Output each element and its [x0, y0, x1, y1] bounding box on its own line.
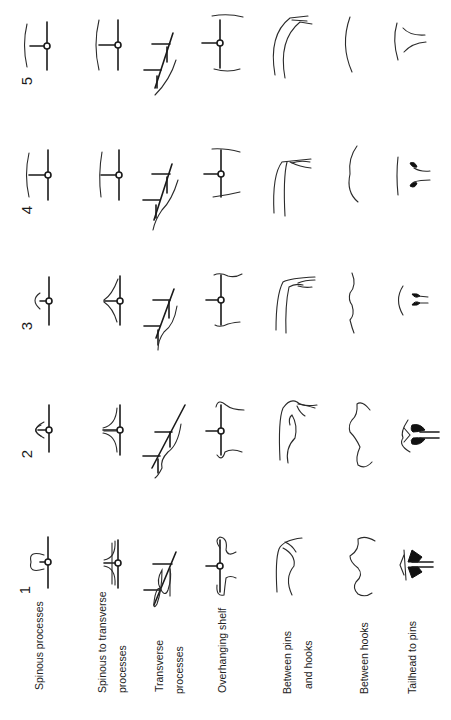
- score-3-row: [35, 273, 428, 350]
- between-hooks-profile-icon: [345, 17, 352, 72]
- spinous-to-transverse-profile-icon: [96, 20, 121, 70]
- label-spinous-processes: Spinous processes: [33, 601, 45, 690]
- pins-hooks-profile-icon: [273, 16, 312, 78]
- transverse-process-profile-icon: [144, 289, 177, 350]
- between-hooks-profile-icon: [349, 146, 358, 202]
- tailhead-profile-icon: [402, 420, 439, 452]
- tailhead-profile-icon: [400, 550, 433, 580]
- spinous-to-transverse-profile-icon: [103, 405, 123, 455]
- pins-hooks-profile-icon: [274, 159, 311, 216]
- label-spinous-to-transverse-2: processes: [116, 645, 128, 693]
- overhanging-shelf-profile-icon: [206, 274, 242, 327]
- spinous-process-profile-icon: [27, 150, 52, 200]
- transverse-process-profile-icon: [144, 33, 176, 95]
- label-overhanging-shelf: Overhanging shelf: [216, 608, 228, 693]
- label-transverse-1: Transverse: [153, 640, 165, 692]
- spinous-process-profile-icon: [36, 405, 53, 452]
- label-between-pins-2: and hooks: [302, 641, 314, 689]
- transverse-process-profile-icon: [143, 405, 185, 478]
- spinous-process-profile-icon: [35, 277, 52, 325]
- overhanging-shelf-profile-icon: [206, 402, 244, 458]
- spinous-to-transverse-profile-icon: [100, 150, 122, 200]
- transverse-process-profile-icon: [143, 164, 178, 230]
- pins-hooks-profile-icon: [279, 401, 317, 463]
- between-hooks-profile-icon: [349, 273, 354, 333]
- spinous-process-profile-icon: [31, 537, 51, 588]
- pins-hooks-profile-icon: [276, 538, 302, 595]
- spinous-to-transverse-profile-icon: [104, 540, 121, 588]
- label-between-pins-1: Between pins: [281, 631, 293, 694]
- overhanging-shelf-profile-icon: [204, 149, 240, 197]
- body-condition-score-diagram: 5 4 3 2 1: [0, 0, 451, 720]
- label-between-hooks: Between hooks: [358, 622, 370, 694]
- overhanging-shelf-profile-icon: [206, 537, 236, 595]
- between-hooks-profile-icon: [349, 403, 372, 467]
- spinous-process-profile-icon: [25, 22, 51, 70]
- score-1-row: [31, 537, 433, 607]
- between-hooks-profile-icon: [350, 537, 375, 595]
- transverse-process-profile-icon: [144, 552, 176, 607]
- label-tailhead-to-pins: Tailhead to pins: [406, 621, 418, 694]
- tailhead-profile-icon: [397, 157, 430, 195]
- label-spinous-to-transverse-1: Spinous to transverse: [96, 591, 108, 693]
- score-2-row: [36, 401, 440, 478]
- pins-hooks-profile-icon: [276, 277, 315, 333]
- spinous-to-transverse-profile-icon: [104, 276, 123, 325]
- label-transverse-2: processes: [173, 646, 185, 694]
- overhanging-shelf-profile-icon: [202, 15, 243, 71]
- tailhead-profile-icon: [399, 286, 429, 315]
- tailhead-profile-icon: [395, 23, 426, 60]
- score-5-row: [25, 15, 427, 95]
- score-4-row: [27, 146, 431, 230]
